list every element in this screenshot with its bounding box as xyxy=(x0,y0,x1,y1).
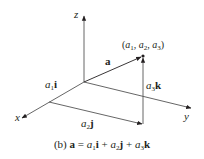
point-dot xyxy=(141,54,144,57)
z-axis-label: z xyxy=(74,9,78,20)
a2j-component-arrow xyxy=(49,102,142,124)
vector-a-arrow xyxy=(84,57,141,82)
x-axis-label: x xyxy=(15,112,20,123)
vector-components-diagram xyxy=(0,0,204,159)
figure-caption: (b) a = a1i + a2j + a3k xyxy=(0,139,204,152)
y-axis-label: y xyxy=(184,111,189,122)
vector-a-label: a xyxy=(105,56,111,67)
a2j-label: a2j xyxy=(81,118,94,131)
a3k-label: a3k xyxy=(146,80,161,93)
a1i-label: a1i xyxy=(45,79,57,92)
point-label: (a1, a2, a3) xyxy=(122,40,164,52)
y-axis xyxy=(84,82,191,108)
